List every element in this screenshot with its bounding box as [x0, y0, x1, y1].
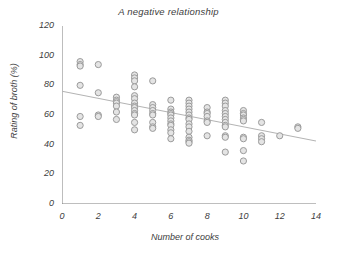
data-point — [95, 90, 101, 96]
data-point — [222, 134, 228, 140]
x-tick-label: 10 — [231, 211, 255, 221]
data-point — [150, 125, 156, 131]
data-point — [95, 61, 101, 67]
data-point — [277, 133, 283, 139]
x-tick-label: 14 — [304, 211, 328, 221]
data-point — [168, 136, 174, 142]
scatter-chart-figure: A negative relationship Rating of broth … — [0, 0, 337, 256]
data-point — [240, 158, 246, 164]
data-points — [77, 59, 301, 165]
x-tick-label: 6 — [159, 211, 183, 221]
x-tick-label: 8 — [195, 211, 219, 221]
data-point — [131, 112, 137, 118]
data-point — [258, 139, 264, 145]
data-point — [258, 119, 264, 125]
data-point — [168, 97, 174, 103]
data-point — [131, 78, 137, 84]
data-point — [77, 122, 83, 128]
data-point — [204, 133, 210, 139]
chart-canvas — [62, 26, 316, 204]
x-tick-label: 12 — [268, 211, 292, 221]
data-point — [240, 118, 246, 124]
x-tick-label: 4 — [123, 211, 147, 221]
x-tick-label: 0 — [50, 211, 74, 221]
data-point — [186, 128, 192, 134]
data-point — [131, 119, 137, 125]
y-tick-label: 120 — [20, 20, 54, 30]
data-point — [113, 103, 119, 109]
data-point — [240, 148, 246, 154]
data-point — [77, 113, 83, 119]
y-tick-label: 40 — [20, 139, 54, 149]
data-point — [168, 130, 174, 136]
data-point — [222, 124, 228, 130]
y-tick-label: 60 — [20, 109, 54, 119]
chart-title: A negative relationship — [0, 6, 337, 17]
y-axis-label: Rating of broth (%) — [9, 41, 19, 161]
data-point — [240, 136, 246, 142]
y-tick-label: 100 — [20, 50, 54, 60]
data-point — [77, 82, 83, 88]
data-point — [295, 125, 301, 131]
data-point — [131, 127, 137, 133]
data-point — [113, 109, 119, 115]
data-point — [95, 113, 101, 119]
data-point — [113, 116, 119, 122]
x-axis-label: Number of cooks — [55, 232, 315, 242]
data-point — [77, 63, 83, 69]
x-tick-label: 2 — [86, 211, 110, 221]
data-point — [204, 119, 210, 125]
data-point — [131, 84, 137, 90]
plot-area — [62, 26, 316, 204]
data-point — [222, 149, 228, 155]
data-point — [150, 78, 156, 84]
data-point — [150, 112, 156, 118]
data-point — [186, 140, 192, 146]
y-tick-label: 20 — [20, 168, 54, 178]
y-tick-label: 80 — [20, 79, 54, 89]
y-tick-label: 0 — [20, 198, 54, 208]
